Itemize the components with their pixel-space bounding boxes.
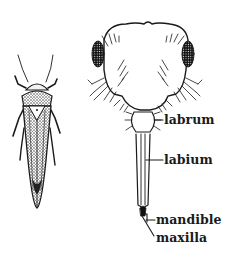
labrum: [131, 112, 154, 132]
label-labrum: labrum: [164, 114, 215, 127]
label-labium: labium: [164, 154, 213, 167]
leg-hind-left: [20, 128, 24, 160]
leg-mid-right: [51, 110, 60, 133]
label-maxilla: maxilla: [156, 232, 207, 245]
leafhopper-head: [26, 84, 48, 90]
compound-eye-left: [92, 41, 104, 67]
leg-front-left: [15, 76, 26, 88]
leg-hind-right: [50, 128, 55, 165]
labium: [136, 134, 150, 208]
diagram-canvas: [0, 0, 238, 268]
compound-eye-right: [182, 41, 194, 67]
head-capsule: [104, 22, 188, 110]
label-mandible: mandible: [156, 214, 221, 227]
leg-mid-left: [13, 110, 23, 136]
antenna-left: [18, 55, 28, 82]
mouthparts-figure: [88, 22, 202, 236]
antenna-right: [46, 55, 53, 82]
maxilla-leader: [142, 216, 154, 236]
leafhopper-figure: [13, 55, 60, 208]
leg-front-right: [48, 79, 57, 88]
